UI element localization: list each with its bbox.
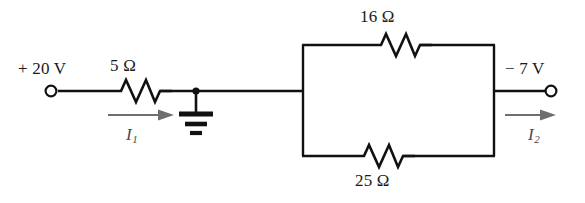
- circuit-schematic-canvas: [0, 0, 585, 203]
- left-terminal-node-circle: [46, 86, 57, 97]
- current-arrow-i2-head: [540, 110, 556, 121]
- current-label-i2-symbol: I: [528, 125, 534, 144]
- left-terminal-voltage-label: + 20 V: [18, 60, 66, 77]
- current-label-i1-subscript: 1: [132, 133, 138, 145]
- current-label-i2: I2: [528, 126, 540, 145]
- resistor-25-ohm-label: 25 Ω: [355, 172, 390, 189]
- resistor-16-ohm-label: 16 Ω: [360, 8, 395, 25]
- right-terminal-node-circle: [546, 86, 557, 97]
- right-terminal-voltage-label: − 7 V: [505, 60, 545, 77]
- current-label-i1: I1: [126, 126, 138, 145]
- current-label-i2-subscript: 2: [534, 133, 540, 145]
- current-arrow-i1-head: [158, 110, 174, 121]
- current-arrow-i1: [108, 110, 174, 121]
- resistor-5-ohm-label: 5 Ω: [110, 57, 136, 74]
- current-label-i1-symbol: I: [126, 125, 132, 144]
- current-arrow-i2: [505, 110, 556, 121]
- circuit-diagram: + 20 V 5 Ω 16 Ω 25 Ω − 7 V I1 I2: [0, 0, 585, 203]
